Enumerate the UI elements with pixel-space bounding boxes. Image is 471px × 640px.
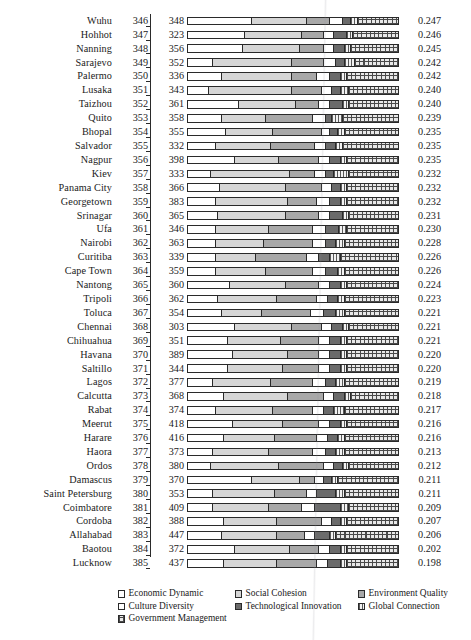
city-label: Saltillo	[0, 364, 118, 374]
index-value: 0.217	[399, 405, 441, 415]
axis-tick	[146, 318, 150, 319]
bar-segment-eco	[187, 183, 219, 192]
bar-segment-soc	[215, 406, 272, 415]
stacked-bar	[187, 336, 399, 345]
bar-segment-gov	[346, 225, 399, 234]
stacked-bar	[187, 392, 399, 401]
bar-segment-gov	[354, 58, 399, 67]
bar-segment-soc	[217, 211, 285, 220]
bar-cell	[187, 306, 399, 320]
rank-value: 370	[118, 350, 152, 360]
city-label: Ufa	[0, 224, 118, 234]
population-value: 398	[152, 155, 187, 165]
bar-segment-env	[265, 114, 312, 123]
bar-cell	[187, 84, 399, 98]
bar-segment-glo	[333, 170, 348, 179]
bar-segment-env	[276, 531, 304, 540]
bar-segment-cul	[314, 170, 325, 179]
population-value: 356	[152, 44, 187, 54]
bar-segment-gov	[348, 100, 399, 109]
bar-segment-gov	[344, 378, 399, 387]
stacked-bar	[187, 489, 399, 498]
bar-segment-soc	[212, 378, 269, 387]
bar-segment-env	[278, 462, 323, 471]
axis-tick	[146, 443, 150, 444]
rank-value: 378	[118, 461, 152, 471]
index-value: 0.235	[399, 141, 441, 151]
population-value: 437	[152, 558, 187, 568]
bar-segment-eco	[187, 72, 221, 81]
city-label: Lusaka	[0, 85, 118, 95]
index-value: 0.221	[399, 336, 441, 346]
bar-segment-eco	[187, 267, 215, 276]
bar-segment-gov	[344, 434, 399, 443]
stacked-bar	[187, 517, 399, 526]
bar-segment-eco	[187, 114, 221, 123]
bar-segment-eco	[187, 142, 215, 151]
bar-segment-tec	[333, 31, 346, 40]
axis-tick	[146, 374, 150, 375]
bar-cell	[187, 153, 399, 167]
bar-cell	[187, 70, 399, 84]
rank-value: 372	[118, 377, 152, 387]
bar-segment-env	[291, 86, 321, 95]
bar-cell	[187, 542, 399, 556]
bar-segment-eco	[187, 448, 212, 457]
population-value: 355	[152, 127, 187, 137]
bar-segment-gov	[346, 336, 399, 345]
stacked-bar	[187, 267, 399, 276]
city-label: Kiev	[0, 169, 118, 179]
bar-segment-soc	[234, 156, 279, 165]
bar-segment-soc	[225, 128, 272, 137]
stacked-bar	[187, 253, 399, 262]
population-value: 351	[152, 336, 187, 346]
bar-segment-gov	[348, 323, 399, 332]
bar-segment-soc	[221, 309, 261, 318]
bar-segment-tec	[318, 253, 329, 262]
bar-segment-soc	[242, 44, 299, 53]
index-value: 0.223	[399, 294, 441, 304]
city-label: Coimbatore	[0, 503, 118, 513]
rank-value: 359	[118, 197, 152, 207]
index-value: 0.202	[399, 544, 441, 554]
bar-segment-soc	[221, 531, 276, 540]
bar-segment-tec	[325, 267, 338, 276]
bar-segment-env	[255, 253, 306, 262]
rank-value: 350	[118, 71, 152, 81]
bar-cell	[187, 139, 399, 153]
rank-value: 382	[118, 516, 152, 526]
chart-row: Ufa3613460.230	[0, 223, 471, 237]
bar-segment-eco	[187, 350, 232, 359]
bar-segment-env	[295, 100, 318, 109]
legend-item-technological-innovation: Technological Innovation	[235, 602, 358, 611]
bar-segment-tec	[329, 420, 340, 429]
population-value: 418	[152, 419, 187, 429]
chart-row: Chihuahua3693510.221	[0, 334, 471, 348]
stacked-bar	[187, 503, 399, 512]
bar-cell	[187, 417, 399, 431]
stacked-bar	[187, 142, 399, 151]
bar-segment-cul	[318, 364, 329, 373]
bar-segment-gov	[346, 559, 399, 568]
rank-value: 375	[118, 419, 152, 429]
chart-row: Toluca3673540.221	[0, 306, 471, 320]
bar-segment-soc	[215, 225, 268, 234]
city-label: Toluca	[0, 308, 118, 318]
bar-segment-glo	[335, 489, 343, 498]
bar-segment-cul	[301, 503, 314, 512]
bar-cell	[187, 125, 399, 139]
bar-segment-env	[291, 72, 316, 81]
bar-segment-tec	[325, 239, 336, 248]
stacked-bar	[187, 197, 399, 206]
bar-cell	[187, 14, 399, 28]
bar-segment-gov	[346, 156, 399, 165]
index-value: 0.246	[399, 30, 441, 40]
bar-segment-soc	[223, 517, 276, 526]
bar-cell	[187, 237, 399, 251]
index-value: 0.216	[399, 433, 441, 443]
bar-segment-cul	[316, 559, 327, 568]
bar-segment-soc	[234, 545, 289, 554]
index-value: 0.211	[399, 489, 441, 499]
bar-segment-tec	[314, 503, 339, 512]
stacked-bar	[187, 323, 399, 332]
